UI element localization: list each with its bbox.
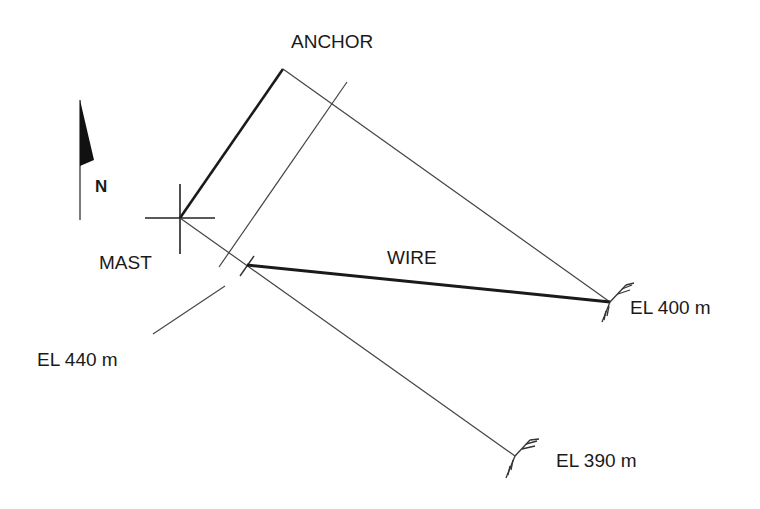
elevation-390-label: EL 390 m — [556, 451, 637, 470]
mast-el390-line — [180, 218, 515, 456]
north-arrow-icon — [80, 100, 94, 220]
wire-label: WIRE — [387, 248, 437, 267]
contour-el440-line-upper — [219, 82, 347, 267]
elevation-400-label: EL 400 m — [630, 298, 711, 317]
mast-anchor-line — [180, 69, 283, 218]
north-label: N — [95, 178, 107, 195]
mast-label: MAST — [99, 253, 152, 272]
contour-el440-line-lower — [153, 286, 225, 334]
elevation-440-label: EL 440 m — [37, 350, 118, 369]
wire-line — [247, 265, 610, 302]
mast-cross-icon — [145, 184, 215, 254]
anchor-label: ANCHOR — [291, 32, 373, 51]
ground-anchor-el390-icon — [506, 439, 539, 478]
